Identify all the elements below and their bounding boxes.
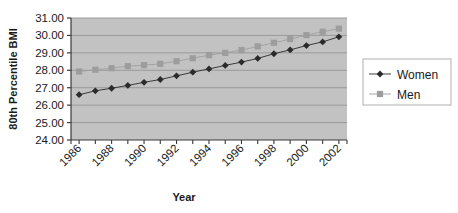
legend-label: Women [397, 68, 438, 82]
data-point [76, 68, 82, 74]
data-point [222, 50, 228, 56]
y-tick-label: 27.00 [35, 82, 64, 94]
x-tick-label: 1990 [122, 142, 149, 169]
data-point [303, 32, 309, 38]
data-point [320, 29, 326, 35]
legend: WomenMen [363, 59, 451, 105]
legend-label: Men [397, 88, 420, 102]
data-point [255, 43, 261, 49]
legend-marker [377, 91, 383, 97]
x-tick-label: 1996 [219, 142, 246, 169]
data-point [190, 55, 196, 61]
data-point [108, 65, 114, 71]
data-point [125, 63, 131, 69]
data-point [141, 62, 147, 68]
x-tick-label: 1994 [187, 142, 214, 169]
x-axis-title: Year [172, 191, 196, 203]
data-point [271, 40, 277, 46]
y-axis-ticks: 24.0025.0026.0027.0028.0029.0030.0031.00 [35, 12, 71, 146]
data-point [287, 36, 293, 42]
data-point [157, 61, 163, 67]
x-tick-label: 2000 [284, 142, 311, 169]
data-point [238, 47, 244, 53]
data-point [336, 26, 342, 32]
x-tick-label: 1998 [252, 142, 279, 169]
y-tick-label: 25.00 [35, 117, 64, 129]
data-point [206, 52, 212, 58]
y-tick-label: 26.00 [35, 99, 64, 111]
x-axis-labels: 198619881990199219941996199820002002 [57, 142, 343, 169]
y-tick-label: 24.00 [35, 134, 64, 146]
data-point [173, 58, 179, 64]
y-tick-label: 28.00 [35, 64, 64, 76]
bmi-line-chart: 24.0025.0026.0027.0028.0029.0030.0031.00… [0, 0, 458, 213]
x-tick-label: 2002 [317, 142, 344, 169]
y-tick-label: 29.00 [35, 47, 64, 59]
x-tick-label: 1992 [154, 142, 181, 169]
chart-container: 24.0025.0026.0027.0028.0029.0030.0031.00… [0, 0, 458, 213]
y-tick-label: 31.00 [35, 12, 64, 24]
x-axis-ticks [71, 140, 347, 144]
x-tick-label: 1988 [89, 142, 116, 169]
y-axis-title: 80th Percentile BMI [7, 28, 19, 129]
y-tick-label: 30.00 [35, 29, 64, 41]
data-point [92, 67, 98, 73]
